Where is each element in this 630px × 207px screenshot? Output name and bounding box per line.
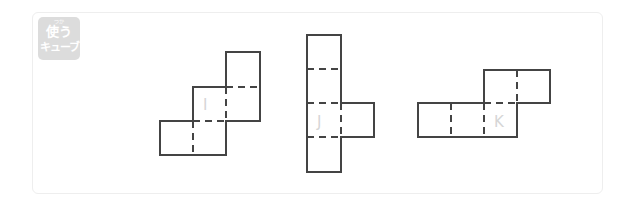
net-j-label: J (316, 113, 321, 131)
net-i-label: I (203, 96, 207, 114)
net-i (160, 52, 260, 155)
net-k (418, 70, 550, 137)
net-k-label: K (494, 113, 505, 131)
cube-nets-figure: I J K (0, 0, 630, 207)
net-j (307, 35, 374, 172)
